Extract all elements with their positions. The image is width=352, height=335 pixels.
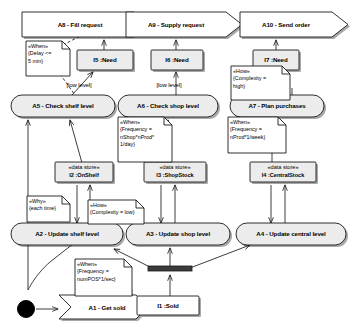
shape-note-when-delay: [26, 41, 70, 76]
shape-a2: [11, 223, 123, 245]
shape-a3: [126, 223, 230, 245]
shape-a10: [240, 12, 348, 37]
initial-node: [18, 301, 35, 318]
shape-a5: [11, 95, 115, 117]
shape-a6: [118, 95, 218, 117]
shape-a4: [236, 223, 346, 245]
shape-i5: [77, 50, 133, 70]
shape-note-how-high: [231, 66, 290, 100]
shape-note-why: [27, 196, 70, 222]
diagram-edges-layer: [0, 0, 352, 335]
shape-i6: [151, 50, 203, 70]
shape-i3: [144, 162, 206, 182]
shape-a9: [126, 12, 242, 37]
shape-note-when-sold: [75, 259, 132, 296]
shape-i4: [250, 162, 316, 182]
fork-join-bar: [148, 266, 192, 271]
shape-i1: [137, 296, 199, 315]
shape-a1: [59, 295, 148, 319]
diagram-canvas: A8 - Fill request A9 - Supply request A1…: [0, 0, 352, 335]
shape-i2: [55, 162, 113, 182]
shape-note-when-central: [228, 117, 286, 153]
